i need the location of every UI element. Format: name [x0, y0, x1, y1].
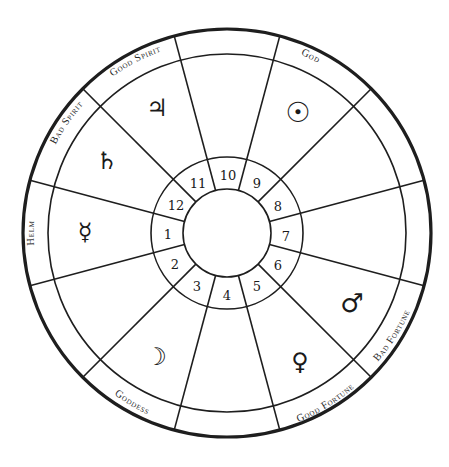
divider-5-6: [258, 264, 371, 377]
divider-12-1: [30, 180, 185, 221]
sun-icon: ☉: [285, 96, 310, 129]
label-helm: Helm: [25, 220, 36, 246]
planet-glyphs: ♃ ♄ ☿ ☽ ♀ ♂ ☉: [78, 94, 364, 376]
divider-2-3: [83, 264, 196, 377]
inner-ring: [183, 189, 271, 277]
mercury-icon: ☿: [78, 218, 93, 246]
divider-11-12: [83, 89, 196, 202]
divider-1-2: [30, 244, 185, 285]
jupiter-icon: ♃: [146, 94, 168, 122]
divider-9-10: [238, 36, 279, 191]
divider-4-5: [238, 276, 279, 431]
divider-7-8: [270, 180, 425, 221]
house-number-12: 12: [168, 198, 185, 213]
house-number-6: 6: [274, 258, 282, 273]
saturn-icon: ♄: [96, 147, 118, 175]
divider-10-11: [174, 36, 215, 191]
moon-icon: ☽: [145, 343, 167, 371]
house-number-10: 10: [220, 168, 237, 183]
label-good-fortune: Good Fortune: [295, 380, 356, 424]
house-number-4: 4: [223, 288, 231, 303]
house-number-2: 2: [171, 257, 179, 272]
house-number-1: 1: [164, 227, 172, 242]
house-number-11: 11: [190, 176, 207, 191]
astrological-wheel: 1 2 3 4 5 6 7 8 9 10 11 12 ♃ ♄ ☿ ☽ ♀ ♂ ☉…: [0, 0, 449, 467]
divider-8-9: [258, 89, 371, 202]
house-number-3: 3: [193, 279, 201, 294]
house-number-7: 7: [282, 229, 290, 244]
divider-6-7: [270, 244, 425, 285]
divider-3-4: [174, 276, 215, 431]
mars-icon: ♂: [340, 288, 363, 318]
house-number-9: 9: [253, 176, 261, 191]
house-number-8: 8: [274, 199, 282, 214]
venus-icon: ♀: [291, 348, 309, 376]
house-number-5: 5: [253, 279, 261, 294]
